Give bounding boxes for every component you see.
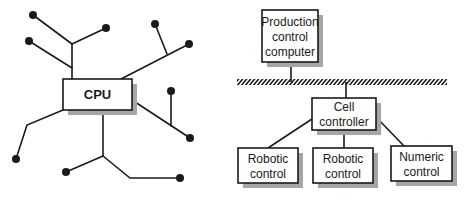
network-bus	[237, 79, 447, 85]
terminal-node	[102, 24, 110, 32]
hierarchy-diagram: Production control computer Cell control…	[237, 10, 457, 188]
terminal-node	[151, 20, 159, 28]
terminal-node	[12, 155, 20, 163]
link-top-left-a	[29, 41, 72, 68]
production-control-computer-box: Production control computer	[261, 10, 323, 67]
robotic-1-label-line1: Robotic	[248, 152, 289, 166]
terminal-node	[25, 37, 33, 45]
diagram-canvas: CPU Production control computer Cell con…	[0, 0, 469, 201]
link-bottom-b	[103, 156, 180, 178]
numeric-control-box: Numeric control	[391, 146, 457, 186]
production-label-line3: computer	[265, 45, 315, 59]
cpu-box: CPU	[63, 79, 137, 115]
production-label-line2: control	[272, 30, 308, 44]
numeric-label-line2: control	[403, 165, 439, 179]
cpu-label: CPU	[84, 87, 111, 102]
robotic-control-box-1: Robotic control	[238, 148, 303, 188]
cell-label-line2: controller	[319, 115, 368, 129]
terminal-node	[185, 40, 193, 48]
terminal-node	[62, 168, 70, 176]
terminal-node	[176, 174, 184, 182]
terminal-node	[29, 11, 37, 19]
cell-label-line1: Cell	[334, 100, 355, 114]
robotic-1-label-line2: control	[250, 167, 286, 181]
link-bottom-left	[16, 110, 63, 159]
robotic-2-label-line2: control	[325, 167, 361, 181]
numeric-label-line1: Numeric	[399, 150, 444, 164]
robotic-control-box-2: Robotic control	[313, 148, 378, 188]
link-top-right-trunk	[121, 44, 189, 79]
production-label-line1: Production	[261, 15, 318, 29]
robotic-2-label-line1: Robotic	[323, 152, 364, 166]
link-right-trunk	[132, 100, 190, 138]
link-top-left-c	[72, 28, 106, 44]
link-cell-robotic-1	[268, 119, 312, 148]
link-top-left-b	[33, 15, 72, 44]
terminal-node	[167, 87, 175, 95]
terminal-node	[186, 134, 194, 142]
cell-controller-box: Cell controller	[312, 98, 381, 135]
link-top-right-b	[155, 24, 167, 54]
link-bottom-a	[66, 156, 103, 172]
